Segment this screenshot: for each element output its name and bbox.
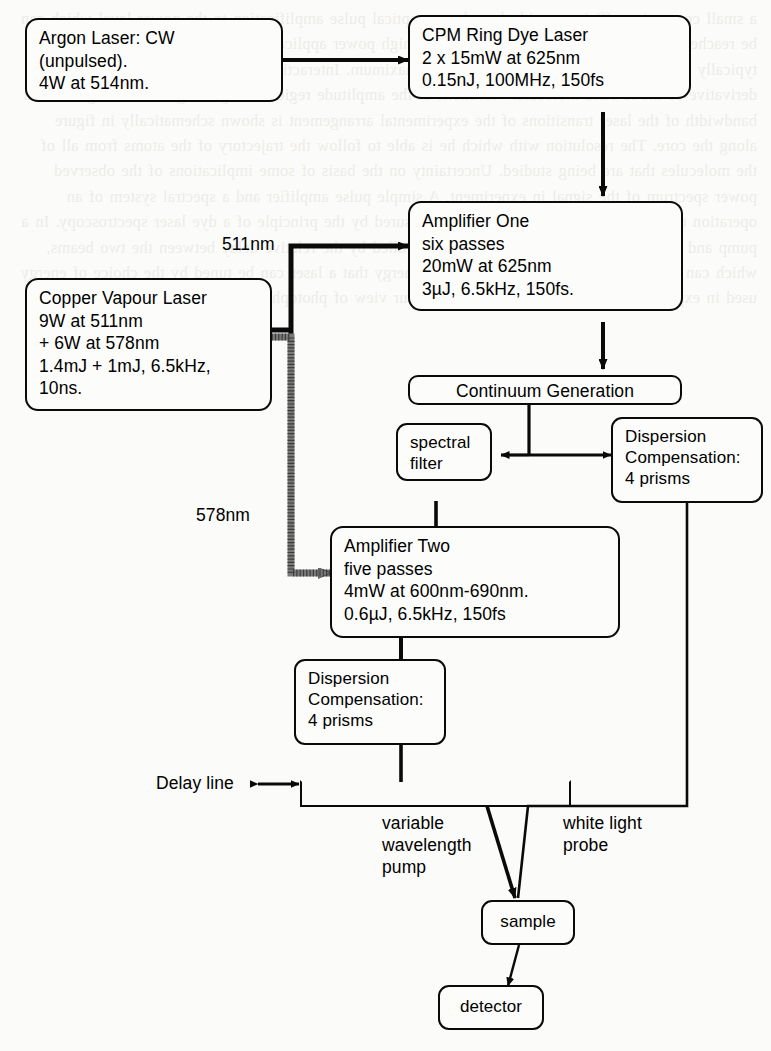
- delay-line-channel[interactable]: [300, 780, 571, 807]
- node-detector[interactable]: detector: [438, 985, 544, 1030]
- wire-sample-to-detector: [508, 945, 519, 986]
- wire-variable-wavelength-pump: [487, 806, 515, 898]
- wire-continuum-split-bus: [501, 404, 611, 455]
- node-amplifier-one[interactable]: Amplifier One six passes 20mW at 625nm 3…: [408, 201, 683, 311]
- label-white-light-probe: white light probe: [563, 812, 642, 856]
- node-argon-laser[interactable]: Argon Laser: CW (unpulsed). 4W at 514nm.: [25, 18, 283, 102]
- node-dispersion-compensation-upper[interactable]: Dispersion Compensation: 4 prisms: [611, 417, 763, 503]
- diagram-canvas: a small conversion efficiency with these…: [0, 0, 771, 1051]
- node-dispersion-compensation-lower[interactable]: Dispersion Compensation: 4 prisms: [294, 659, 446, 745]
- node-cpm-ring-dye-laser[interactable]: CPM Ring Dye Laser 2 x 15mW at 625nm 0.1…: [408, 15, 691, 99]
- node-amplifier-two[interactable]: Amplifier Two five passes 4mW at 600nm-6…: [330, 526, 620, 638]
- node-spectral-filter[interactable]: spectral filter: [396, 423, 492, 481]
- label-variable-wavelength-pump: variable wavelength pump: [382, 812, 472, 878]
- label-578nm: 578nm: [196, 504, 250, 526]
- node-sample[interactable]: sample: [481, 900, 575, 945]
- node-continuum-generation[interactable]: Continuum Generation: [408, 375, 682, 405]
- label-511nm: 511nm: [222, 233, 275, 255]
- node-copper-vapour-laser[interactable]: Copper Vapour Laser 9W at 511nm + 6W at …: [25, 278, 272, 411]
- label-delay-line: Delay line: [156, 772, 234, 794]
